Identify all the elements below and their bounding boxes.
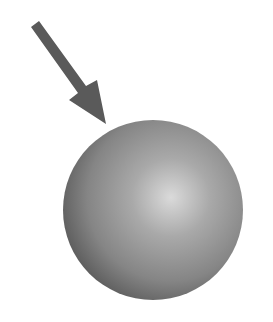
arrow-icon [31,21,106,124]
diagram-canvas [0,0,273,322]
sphere [63,120,243,300]
